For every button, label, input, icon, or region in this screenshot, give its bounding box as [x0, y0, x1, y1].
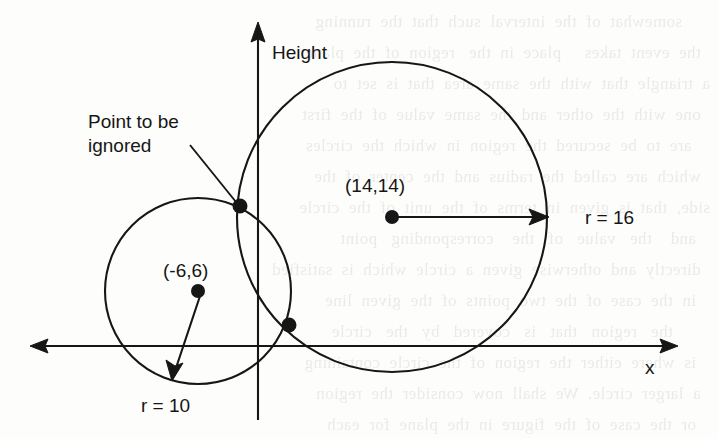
ignored-point-label-line2: ignored [88, 135, 151, 156]
x-axis-left-arrowhead [30, 339, 48, 353]
y-axis-label: Height [272, 42, 328, 63]
large-circle-center-label: (14,14) [345, 175, 405, 196]
large-circle-radius-label: r = 16 [585, 207, 634, 228]
small-circle-radius-line [176, 296, 200, 368]
ignored-point-label-line1: Point to be [88, 111, 179, 132]
circles-coordinate-diagram: Height x Point to be ignored (14,14) r =… [0, 0, 718, 439]
large-circle-center-group [385, 209, 549, 225]
small-circle-center-label: (-6,6) [163, 260, 208, 281]
small-circle-radius-arrowhead [166, 360, 183, 381]
axes-group [30, 22, 678, 420]
ignored-point-leader-line [190, 145, 236, 202]
x-axis-label: x [645, 357, 655, 378]
lower-intersection-point [282, 318, 297, 333]
small-circle-center-dot [191, 284, 205, 298]
small-circle-center-group [166, 284, 205, 381]
small-circle-radius-label: r = 10 [141, 395, 190, 416]
x-axis-right-arrowhead [660, 339, 678, 353]
y-axis-arrowhead [251, 22, 265, 42]
